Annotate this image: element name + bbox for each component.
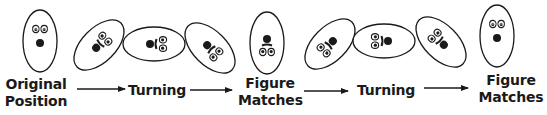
label-original-position: Original Position — [0, 76, 72, 110]
label-line: Matches — [238, 92, 302, 109]
label-line: Matches — [478, 89, 544, 106]
label-line: Turning — [355, 82, 417, 99]
figure-original-position — [23, 10, 57, 72]
label-line: Original — [0, 76, 72, 93]
figure-turning-315 — [407, 8, 475, 76]
figure-matches-180 — [250, 12, 284, 74]
label-figure-matches-1: Figure Matches — [238, 75, 302, 109]
label-turning-2: Turning — [355, 82, 417, 99]
label-line: Turning — [126, 82, 188, 99]
label-figure-matches-2: Figure Matches — [478, 72, 544, 106]
figure-turning-270 — [353, 24, 415, 58]
label-line: Position — [0, 93, 72, 110]
label-line: Figure — [478, 72, 544, 89]
figure-matches-360 — [480, 5, 514, 67]
label-line: Figure — [238, 75, 302, 92]
figure-turning-135 — [176, 14, 244, 82]
rotational-symmetry-diagram: Original Position Turning Figure Matches… — [0, 0, 547, 115]
label-turning-1: Turning — [126, 82, 188, 99]
figure-turning-90 — [123, 27, 185, 61]
